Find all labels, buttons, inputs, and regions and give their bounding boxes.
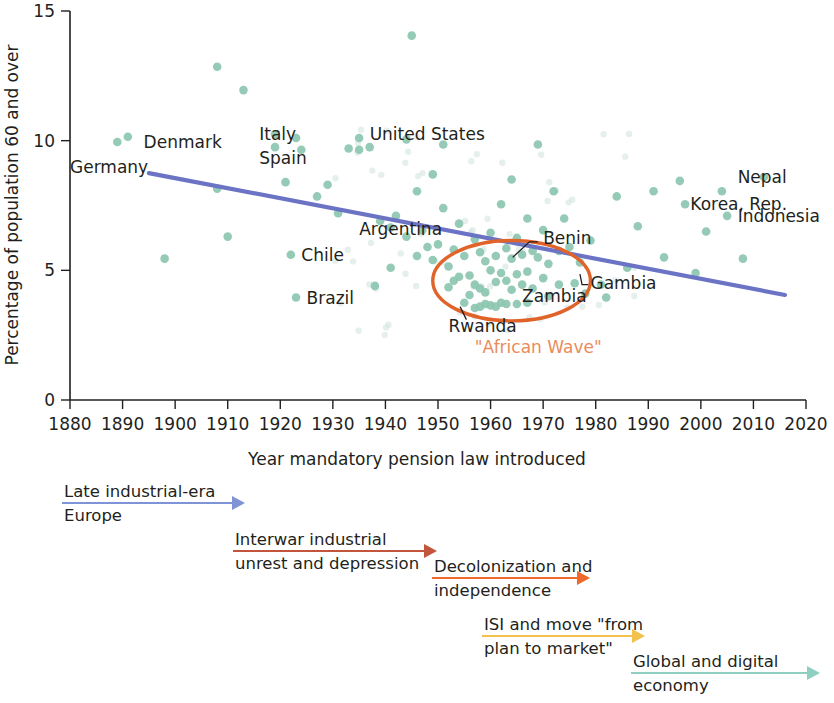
faint-point (546, 179, 552, 185)
scatter-point (465, 291, 474, 300)
era-label-line2-global-digital-economy: economy (633, 676, 709, 695)
faint-point (538, 152, 544, 158)
y-axis-ticks: 051015 (33, 1, 70, 410)
y-axis-title: Percentage of population 60 and over (2, 44, 22, 365)
scatter-point (549, 187, 558, 196)
x-tick-label: 2010 (732, 414, 775, 434)
scatter-point (486, 266, 495, 275)
scatter-point (497, 200, 506, 209)
scatter-point (502, 276, 511, 285)
y-tick-label: 10 (33, 131, 55, 151)
x-tick-label: 1900 (154, 414, 197, 434)
faint-point (499, 160, 505, 166)
x-tick-label: 1880 (48, 414, 91, 434)
scatter-point (124, 132, 133, 141)
faint-point (415, 173, 421, 179)
faint-point (468, 158, 474, 164)
scatter-point (507, 175, 516, 184)
faint-point (600, 131, 606, 137)
scatter-point (492, 252, 501, 261)
country-label-germany: Germany (70, 157, 148, 177)
scatter-point (386, 263, 395, 272)
x-tick-label: 1970 (522, 414, 565, 434)
faint-point (544, 198, 550, 204)
scatter-point (444, 262, 453, 271)
scatter-point (633, 222, 642, 231)
faint-point (358, 126, 364, 132)
scatter-point (523, 267, 532, 276)
scatter-point (113, 138, 122, 147)
faint-point (565, 199, 571, 205)
scatter-point (239, 86, 248, 95)
country-label-rwanda: Rwanda (449, 316, 517, 336)
african-wave-label-group: "African Wave" (475, 337, 602, 357)
x-tick-label: 1930 (311, 414, 354, 434)
scatter-point (502, 244, 511, 253)
gambia-leader (580, 274, 588, 284)
african-wave-label: "African Wave" (475, 337, 602, 357)
x-tick-label: 2000 (679, 414, 722, 434)
scatter-point (292, 293, 301, 302)
x-tick-label: 1980 (574, 414, 617, 434)
era-label-line2-late-industrial-europe: Europe (64, 506, 122, 525)
scatter-point (465, 271, 474, 280)
country-label-gambia: Gambia (590, 273, 656, 293)
faint-point (382, 332, 388, 338)
scatter-point (371, 282, 380, 291)
faint-point (474, 151, 480, 157)
faint-point (402, 271, 408, 277)
faint-point (345, 246, 351, 252)
scatter-point (513, 300, 522, 309)
country-label-nepal: Nepal (738, 167, 787, 187)
scatter-point (544, 260, 553, 269)
era-isi-plan-to-market: ISI and move "fromplan to market" (482, 615, 645, 658)
era-arrowhead-late-industrial-europe (232, 496, 245, 510)
era-late-industrial-europe: Late industrial-eraEurope (62, 482, 245, 525)
scatter-point (481, 257, 490, 266)
scatter-point (460, 252, 469, 261)
axes-group: 051015 188018901900191019201930194019501… (33, 1, 827, 434)
country-label-indonesia: Indonesia (738, 206, 820, 226)
scatter-point (702, 227, 711, 236)
era-arrowhead-global-digital-economy (807, 666, 820, 680)
chart-canvas: GermanyDenmarkItalySpainUnited StatesArg… (0, 0, 834, 703)
faint-point (405, 149, 411, 155)
y-tick-label: 0 (44, 390, 55, 410)
scatter-point (428, 170, 437, 179)
scatter-point (492, 278, 501, 287)
scatter-point (681, 200, 690, 209)
scatter-point (602, 293, 611, 302)
scatter-point (160, 254, 169, 263)
scatter-point (323, 180, 332, 189)
faint-point (502, 263, 508, 269)
scatter-point (486, 228, 495, 237)
x-tick-label: 1890 (101, 414, 144, 434)
era-interwar-unrest: Interwar industrialunrest and depression (233, 530, 437, 573)
country-label-benin: Benin (543, 228, 591, 248)
x-tick-label: 1960 (469, 414, 512, 434)
scatter-point (281, 178, 290, 187)
scatter-point (660, 253, 669, 262)
faint-point (368, 240, 374, 246)
scatter-point (534, 140, 543, 149)
x-axis-title: Year mandatory pension law introduced (247, 449, 586, 469)
faint-point (626, 131, 632, 137)
scatter-point (739, 254, 748, 263)
faint-point (355, 328, 361, 334)
x-tick-label: 1910 (206, 414, 249, 434)
scatter-point (355, 134, 364, 143)
x-tick-label: 1920 (259, 414, 302, 434)
faint-point (631, 293, 637, 299)
scatter-point (423, 243, 432, 252)
faint-point (378, 172, 384, 178)
scatter-point (213, 62, 222, 71)
y-tick-label: 5 (44, 260, 55, 280)
scatter-point (649, 187, 658, 196)
scatter-point (502, 300, 511, 309)
scatter-point (439, 204, 448, 213)
scatter-point (287, 250, 296, 259)
country-label-chile: Chile (301, 245, 344, 265)
scatter-point (355, 145, 364, 154)
era-label-line1-decolonization: Decolonization and (434, 557, 592, 576)
country-label-united-states: United States (370, 124, 485, 144)
